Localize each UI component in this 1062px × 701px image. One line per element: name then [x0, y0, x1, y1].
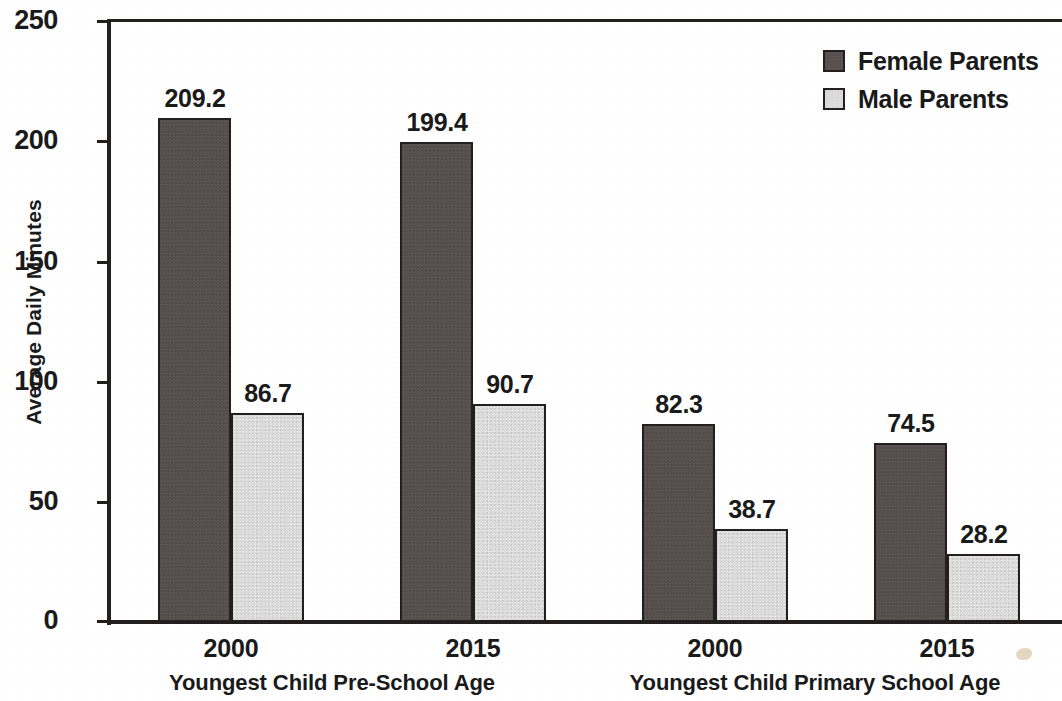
category-label-2015-primary: 2015 — [887, 634, 1007, 663]
bar-value-86-7: 86.7 — [208, 379, 328, 408]
category-label-2015-preschool: 2015 — [413, 634, 533, 663]
bar-value-199-4: 199.4 — [377, 108, 497, 137]
category-label-2000-preschool: 2000 — [171, 634, 291, 663]
legend: Female Parents Male Parents — [823, 42, 1053, 118]
bar-male-2000-preschool — [231, 413, 304, 622]
bar-male-2000-primary — [715, 529, 788, 622]
y-tick-label-250: 250 — [0, 5, 58, 36]
y-tick-mark-0 — [97, 620, 108, 623]
legend-label-male-parents: Male Parents — [858, 85, 1009, 114]
y-tick-mark-50 — [97, 501, 108, 504]
y-tick-mark-150 — [97, 261, 108, 264]
bar-female-2000-preschool — [158, 118, 231, 622]
plot-top-border — [109, 19, 1062, 22]
legend-label-female-parents: Female Parents — [858, 47, 1039, 76]
legend-swatch-light-icon — [823, 88, 845, 110]
bar-chart: 250 200 150 100 50 0 Average Daily Minut… — [0, 0, 1062, 701]
y-tick-mark-200 — [97, 140, 108, 143]
bar-value-90-7: 90.7 — [450, 370, 570, 399]
y-axis-title: Average Daily Minutes — [22, 112, 46, 512]
y-tick-label-0: 0 — [0, 605, 58, 636]
y-tick-mark-250 — [97, 20, 108, 23]
bar-value-74-5: 74.5 — [851, 409, 971, 438]
y-axis-line — [107, 19, 111, 625]
legend-item-male-parents: Male Parents — [823, 80, 1053, 118]
legend-item-female-parents: Female Parents — [823, 42, 1053, 80]
bar-value-28-2: 28.2 — [924, 520, 1044, 549]
legend-swatch-dark-icon — [823, 50, 845, 72]
scan-smudge-artifact — [1016, 648, 1032, 660]
y-tick-mark-100 — [97, 381, 108, 384]
group-label-primary-school-age: Youngest Child Primary School Age — [595, 670, 1035, 696]
bar-value-38-7: 38.7 — [692, 495, 812, 524]
group-label-pre-school-age: Youngest Child Pre-School Age — [112, 670, 552, 696]
category-label-2000-primary: 2000 — [655, 634, 775, 663]
bar-value-82-3: 82.3 — [619, 390, 739, 419]
bar-male-2015-primary — [947, 554, 1020, 622]
bar-male-2015-preschool — [473, 404, 546, 622]
bar-value-209-2: 209.2 — [135, 84, 255, 113]
